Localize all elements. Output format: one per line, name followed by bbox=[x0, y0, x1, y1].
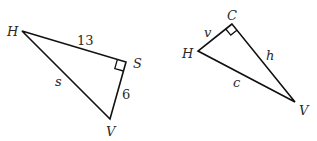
triangle-chv: C H V v h c bbox=[181, 8, 310, 118]
vertex-label-v-right: V bbox=[299, 103, 310, 118]
vertex-label-s: S bbox=[133, 56, 142, 71]
side-label-hs: 13 bbox=[77, 33, 94, 48]
side-label-hv-right: c bbox=[233, 75, 241, 90]
triangle-chv-outline bbox=[198, 24, 295, 102]
side-label-cv: h bbox=[266, 48, 274, 63]
vertex-label-h-right: H bbox=[181, 46, 194, 61]
vertex-label-v-left: V bbox=[106, 124, 117, 139]
side-label-hv-left: s bbox=[55, 74, 62, 89]
side-label-hc: v bbox=[204, 25, 212, 40]
side-label-sv: 6 bbox=[122, 87, 130, 102]
right-angle-marker-c bbox=[226, 29, 238, 35]
vertex-label-h-left: H bbox=[6, 24, 19, 39]
triangles-figure: H S V 13 6 s C H V v h c bbox=[0, 0, 317, 141]
triangle-hsv: H S V 13 6 s bbox=[6, 24, 142, 139]
diagram-canvas: H S V 13 6 s C H V v h c bbox=[0, 0, 317, 141]
vertex-label-c: C bbox=[227, 8, 237, 23]
triangle-hsv-outline bbox=[22, 31, 126, 119]
